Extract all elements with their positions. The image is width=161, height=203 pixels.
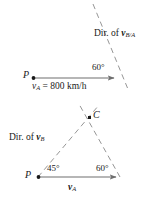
top-diagram-group xyxy=(32,4,128,88)
top-velocity-value: = 800 km/h xyxy=(40,81,86,91)
bottom-direction-label-subscript: B xyxy=(40,135,44,142)
relative-velocity-figure: Dir. of vB/A 60° P vA = 800 km/h C Dir. … xyxy=(0,0,161,203)
top-velocity-label: vA = 800 km/h xyxy=(32,82,86,92)
top-direction-label-subscript: B/A xyxy=(125,31,135,38)
top-dashed-direction-line xyxy=(93,4,128,88)
bottom-angle-right-label: 60° xyxy=(96,164,109,173)
top-angle-label: 60° xyxy=(92,63,105,72)
bottom-base-vector-label: vA xyxy=(68,183,76,193)
top-direction-label: Dir. of vB/A xyxy=(94,29,135,39)
bottom-base-vector-subscript: A xyxy=(72,185,76,192)
top-point-p-marker xyxy=(32,76,36,80)
bottom-point-c-label: C xyxy=(93,110,100,120)
top-point-p-label: P xyxy=(23,70,29,80)
bottom-direction-label: Dir. of vB xyxy=(9,133,44,143)
bottom-angle-left-label: 45° xyxy=(47,164,60,173)
bottom-point-p-marker xyxy=(37,175,41,179)
bottom-direction-label-text: Dir. of xyxy=(9,132,36,142)
bottom-point-p-label: P xyxy=(25,170,31,180)
bottom-point-c-marker xyxy=(88,116,91,119)
top-direction-label-text: Dir. of xyxy=(94,28,121,38)
